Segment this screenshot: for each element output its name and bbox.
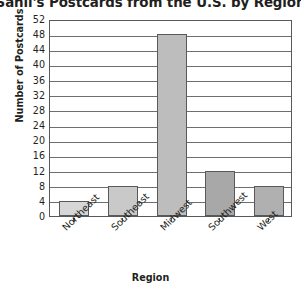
- y-axis-tick-label: 0: [18, 212, 45, 222]
- y-axis-tick-label: 20: [18, 136, 45, 146]
- y-axis-tick-label: 32: [18, 91, 45, 101]
- x-axis-title: Region: [0, 272, 301, 283]
- plot-area: [49, 20, 292, 217]
- y-axis-tick-label: 40: [18, 60, 45, 70]
- y-axis-tick-label: 48: [18, 30, 45, 40]
- bar: [157, 34, 187, 216]
- y-axis-tick-label: 44: [18, 45, 45, 55]
- y-axis-tick-label: 12: [18, 167, 45, 177]
- y-axis-tick-label: 16: [18, 151, 45, 161]
- y-axis-tick-label: 8: [18, 182, 45, 192]
- bar-chart: Sahil's Postcards from the U.S. by Regio…: [0, 0, 301, 290]
- y-axis-tick-label: 4: [18, 197, 45, 207]
- chart-title: Sahil's Postcards from the U.S. by Regio…: [0, 0, 301, 10]
- y-axis-tick-label: 52: [18, 15, 45, 25]
- y-axis-tick-label: 36: [18, 76, 45, 86]
- y-axis-tick-label: 28: [18, 106, 45, 116]
- y-axis-tick-label: 24: [18, 121, 45, 131]
